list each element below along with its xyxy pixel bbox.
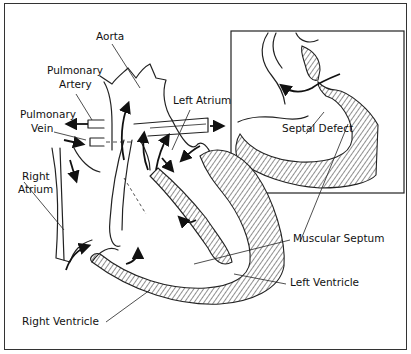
label-aorta: Aorta <box>96 30 124 42</box>
label-left-atrium: Left Atrium <box>173 94 231 106</box>
inset-box <box>231 31 404 193</box>
label-pulmonary-artery-1: Pulmonary <box>47 64 103 76</box>
label-right-ventricle: Right Ventricle <box>22 315 99 327</box>
label-pulmonary-vein-1: Pulmonary <box>20 108 76 120</box>
label-muscular-septum: Muscular Septum <box>293 232 384 244</box>
heart-diagram: Aorta Pulmonary Artery Pulmonary Vein Le… <box>0 0 411 354</box>
label-right-atrium-1: Right <box>22 170 50 182</box>
label-left-ventricle: Left Ventricle <box>290 276 359 288</box>
label-pulmonary-vein-2: Vein <box>31 122 53 134</box>
label-right-atrium-2: Atrium <box>18 183 53 195</box>
label-pulmonary-artery-2: Artery <box>59 78 92 90</box>
label-septal-defect: Septal Defect <box>282 122 353 134</box>
flow-arrows <box>64 104 222 270</box>
